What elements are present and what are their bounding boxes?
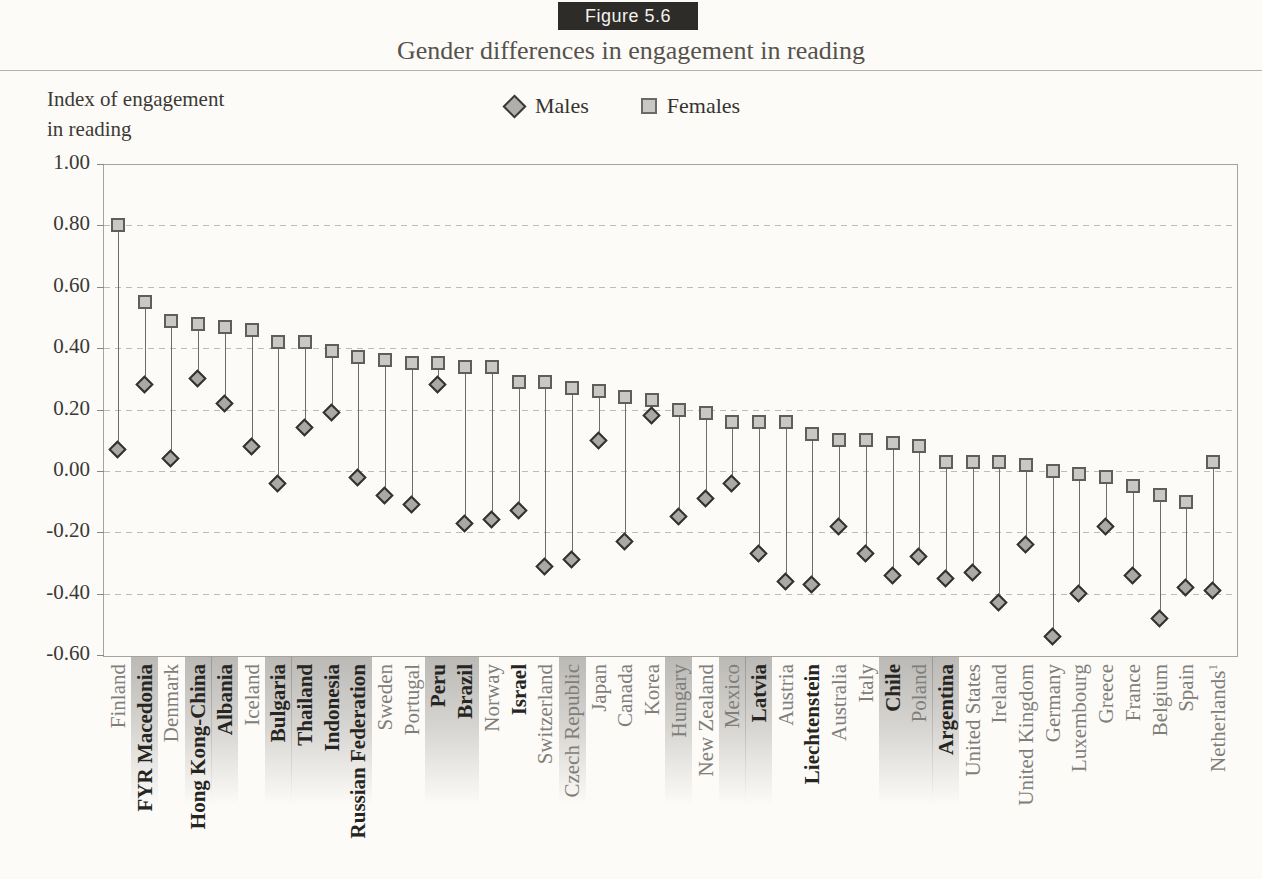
x-label-country: Peru	[426, 664, 450, 707]
female-marker	[1019, 458, 1033, 472]
y-tick-label: 1.00	[14, 150, 90, 175]
female-marker	[512, 375, 526, 389]
female-marker	[1072, 467, 1086, 481]
x-label-country: Brazil	[453, 664, 477, 719]
female-marker	[779, 415, 793, 429]
male-female-connector-line	[465, 367, 466, 524]
female-marker	[912, 439, 926, 453]
x-label-country: Iceland	[240, 664, 264, 726]
gridline	[104, 225, 1236, 226]
male-female-connector-line	[305, 342, 306, 428]
female-marker	[298, 335, 312, 349]
y-axis-tick	[97, 655, 104, 656]
title-separator-rule	[0, 70, 1262, 71]
female-marker	[191, 317, 205, 331]
male-female-connector-line	[545, 382, 546, 566]
male-female-connector-line	[1053, 471, 1054, 637]
x-label-country: Australia	[827, 664, 851, 741]
y-axis-title-line1: Index of engagement	[47, 84, 224, 114]
female-marker	[1046, 464, 1060, 478]
female-marker	[805, 427, 819, 441]
y-tick-label: -0.60	[14, 641, 90, 666]
y-tick-label: 0.60	[14, 273, 90, 298]
female-marker	[538, 375, 552, 389]
y-axis-tick	[97, 287, 104, 288]
male-female-connector-line	[812, 434, 813, 584]
y-tick-label: 0.00	[14, 457, 90, 482]
x-label-country: New Zealand	[694, 664, 718, 777]
x-label-country: Italy	[854, 664, 878, 702]
y-axis-tick	[97, 164, 104, 165]
female-marker	[1206, 455, 1220, 469]
y-axis-tick	[97, 594, 104, 595]
male-female-connector-line	[118, 225, 119, 449]
x-label-country: Indonesia	[320, 664, 344, 752]
x-label-country: Spain	[1174, 664, 1198, 712]
x-label-country: Liechtenstein	[800, 664, 824, 784]
male-female-connector-line	[973, 462, 974, 572]
y-tick-label: -0.40	[14, 580, 90, 605]
male-female-connector-line	[225, 327, 226, 404]
x-label-country: Mexico	[720, 664, 744, 728]
x-label-country: FYR Macedonia	[133, 664, 157, 812]
y-tick-label: -0.20	[14, 518, 90, 543]
y-axis-tick	[97, 348, 104, 349]
x-label-country: Finland	[106, 664, 130, 728]
female-marker	[672, 403, 686, 417]
x-label-country: Czech Republic	[560, 664, 584, 798]
x-label-country: Israel	[507, 664, 531, 715]
male-female-connector-line	[572, 388, 573, 560]
female-marker	[859, 433, 873, 447]
male-female-connector-line	[999, 462, 1000, 603]
gridline	[104, 594, 1236, 595]
male-female-connector-line	[1160, 495, 1161, 618]
female-marker	[832, 433, 846, 447]
x-label-country: United States	[961, 664, 985, 777]
female-marker	[325, 344, 339, 358]
x-label-country: Poland	[907, 664, 931, 722]
y-axis-tick	[97, 225, 104, 226]
legend: Males Females	[506, 93, 740, 119]
males-diamond-icon	[502, 94, 526, 118]
male-female-connector-line	[1026, 465, 1027, 545]
x-label-country: United Kingdom	[1014, 664, 1038, 806]
footnote-superscript: 1	[1205, 664, 1220, 671]
male-female-connector-line	[171, 321, 172, 459]
female-marker	[245, 323, 259, 337]
figure-page: Figure 5.6 Gender differences in engagem…	[0, 0, 1262, 879]
x-label-country: Germany	[1041, 664, 1065, 742]
female-marker	[645, 393, 659, 407]
female-marker	[992, 455, 1006, 469]
male-female-connector-line	[679, 410, 680, 517]
male-female-connector-line	[1186, 502, 1187, 588]
x-label-country: Latvia	[747, 664, 771, 722]
x-label-country: Ireland	[987, 664, 1011, 723]
x-label-country: Argentina	[934, 664, 958, 755]
x-label-country: Portugal	[400, 664, 424, 735]
female-marker	[886, 436, 900, 450]
y-axis-tick	[97, 471, 104, 472]
figure-number-label: Figure 5.6	[558, 2, 698, 30]
x-label-country: Luxembourg	[1067, 664, 1091, 772]
female-marker	[725, 415, 739, 429]
female-marker	[378, 353, 392, 367]
male-female-connector-line	[706, 413, 707, 499]
y-axis-title: Index of engagement in reading	[47, 84, 224, 144]
x-label-country: Sweden	[373, 664, 397, 731]
male-female-connector-line	[1079, 474, 1080, 594]
x-label-country: Albania	[213, 664, 237, 735]
x-label-country: Austria	[774, 664, 798, 726]
male-female-connector-line	[145, 302, 146, 385]
male-female-connector-line	[519, 382, 520, 511]
y-axis-tick	[97, 410, 104, 411]
x-label-country: Hungary	[667, 664, 691, 737]
female-marker	[699, 406, 713, 420]
male-female-connector-line	[278, 342, 279, 483]
female-marker	[485, 360, 499, 374]
x-label-country: Norway	[480, 664, 504, 732]
female-marker	[592, 384, 606, 398]
female-marker	[458, 360, 472, 374]
female-marker	[351, 350, 365, 364]
chart-title: Gender differences in engagement in read…	[0, 36, 1262, 66]
male-female-connector-line	[358, 357, 359, 477]
